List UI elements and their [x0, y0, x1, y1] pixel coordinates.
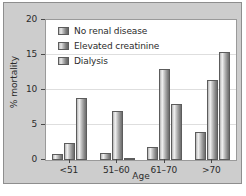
bar: [112, 111, 123, 160]
bar: [64, 143, 75, 160]
chart-figure: % mortality 05101520 <5151–6061–70>70 Ag…: [0, 0, 246, 196]
y-tick-label: 10: [4, 85, 37, 94]
x-tick-mark: [116, 159, 117, 163]
y-tick-mark: [41, 19, 45, 20]
x-tick-mark: [69, 159, 70, 163]
bar: [147, 147, 158, 160]
legend-label: No renal disease: [74, 26, 147, 36]
legend-item: Dialysis: [58, 54, 159, 67]
legend-item: No renal disease: [58, 24, 159, 37]
y-tick-label: 0: [4, 155, 37, 164]
y-tick-mark: [41, 89, 45, 90]
x-tick-mark: [164, 159, 165, 163]
bar: [219, 52, 230, 160]
legend-swatch-icon: [58, 27, 69, 35]
y-tick-label: 15: [4, 50, 37, 59]
y-tick-mark: [41, 54, 45, 55]
bar: [100, 153, 111, 160]
chart-panel: % mortality 05101520 <5151–6061–70>70 Ag…: [3, 2, 242, 184]
legend-label: Elevated creatinine: [74, 41, 159, 51]
x-tick-mark: [211, 159, 212, 163]
bar: [195, 132, 206, 160]
y-tick-mark: [41, 124, 45, 125]
y-tick-label: 5: [4, 120, 37, 129]
legend-swatch-icon: [58, 42, 69, 50]
legend-swatch-icon: [58, 57, 69, 65]
bar: [76, 98, 87, 160]
legend-item: Elevated creatinine: [58, 39, 159, 52]
bar: [171, 104, 182, 160]
y-tick-label: 20: [4, 15, 37, 24]
x-axis-label: Age: [45, 171, 237, 181]
bar: [52, 154, 63, 160]
bar: [159, 69, 170, 160]
bar: [124, 158, 135, 160]
legend-label: Dialysis: [74, 56, 108, 66]
bar: [207, 80, 218, 160]
y-tick-mark: [41, 159, 45, 160]
chart-legend: No renal diseaseElevated creatinineDialy…: [58, 24, 159, 69]
